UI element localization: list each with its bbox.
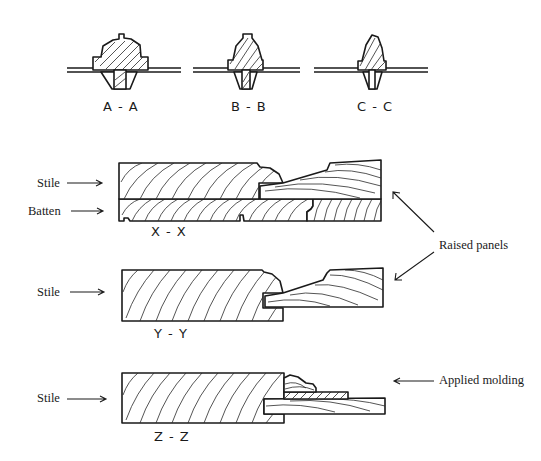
arrow-right-icon — [70, 289, 104, 295]
arrow-right-icon — [71, 208, 103, 214]
callout-label-raised-panels: Raised panels — [439, 238, 508, 252]
section-z-z: Z - Z — [122, 373, 385, 444]
callout-raised-panels: Raised panels — [393, 192, 508, 280]
callout-label-batten: Batten — [28, 204, 61, 218]
section-label-z-z: Z - Z — [154, 429, 190, 444]
spline-tenon — [369, 70, 375, 89]
arrow-up-left-icon — [393, 192, 434, 232]
arrow-down-left-icon — [395, 252, 434, 280]
section-label-c-c: C - C — [357, 99, 393, 114]
section-b-b: B - B — [193, 34, 300, 114]
stile-outline — [122, 270, 283, 321]
panel-joinery-diagram: A - A B - B C - C — [0, 0, 541, 461]
section-y-y: Y - Y — [122, 268, 383, 341]
arrow-right-icon — [67, 180, 102, 186]
arrow-left-icon — [394, 378, 434, 384]
callout-batten-xx: Batten — [28, 204, 103, 218]
callout-label-stile: Stile — [37, 391, 60, 405]
stile-outline — [119, 163, 283, 199]
callout-applied-molding: Applied molding — [394, 373, 525, 387]
section-c-c: C - C — [314, 35, 428, 114]
arrow-right-icon — [67, 396, 106, 402]
callout-stile-yy: Stile — [37, 285, 104, 299]
callout-label-applied-molding: Applied molding — [439, 373, 525, 387]
applied-molding-bead — [284, 375, 316, 392]
section-label-b-b: B - B — [231, 99, 267, 114]
raised-panel-outline — [265, 268, 383, 307]
callout-stile-xx: Stile — [37, 176, 102, 190]
callout-label-stile: Stile — [37, 176, 60, 190]
callout-stile-zz: Stile — [37, 391, 106, 405]
section-label-y-y: Y - Y — [153, 326, 188, 341]
section-label-a-a: A - A — [103, 99, 139, 114]
callout-label-stile: Stile — [37, 285, 60, 299]
section-label-x-x: X - X — [151, 224, 187, 239]
section-a-a: A - A — [67, 34, 181, 114]
section-x-x: X - X — [119, 160, 382, 239]
flat-panel-outline — [264, 398, 385, 414]
